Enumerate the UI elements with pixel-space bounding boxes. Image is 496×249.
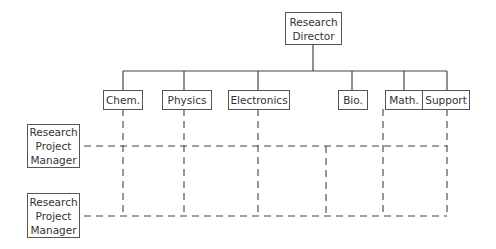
department-box-support: Support [422,90,470,110]
manager-label-line2: Project [36,209,72,223]
department-box-math: Math. [385,90,423,110]
department-label: Math. [389,93,419,107]
manager-label-line3: Manager [30,223,76,237]
department-label: Electronics [230,93,287,107]
manager-label-line3: Manager [30,153,76,167]
department-label: Physics [168,93,207,107]
department-box-chem: Chem. [103,90,143,110]
department-label: Chem. [106,93,140,107]
department-box-physics: Physics [162,90,212,110]
department-label: Bio. [343,93,363,107]
department-label: Support [425,93,467,107]
manager-label-line1: Research [29,195,77,209]
director-label-line1: Research [289,15,337,29]
manager-box-1: Research Project Manager [27,124,80,168]
department-box-electronics: Electronics [228,90,290,110]
department-box-bio: Bio. [338,90,368,110]
director-box: Research Director [285,12,342,45]
manager-box-2: Research Project Manager [27,193,80,238]
manager-label-line1: Research [29,125,77,139]
manager-label-line2: Project [36,139,72,153]
director-label-line2: Director [292,29,334,43]
